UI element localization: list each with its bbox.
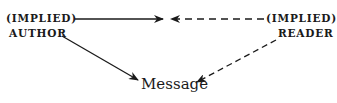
reader-label: READER xyxy=(278,27,334,39)
message-label: Message xyxy=(141,75,208,93)
author-label: AUTHOR xyxy=(9,27,67,39)
reader-to-message-dashed-arrow xyxy=(197,40,276,82)
author-qualifier-label: (IMPLIED) xyxy=(6,12,77,24)
author-to-message-arrow xyxy=(62,36,138,80)
reader-qualifier-label: (IMPLIED) xyxy=(266,12,337,24)
